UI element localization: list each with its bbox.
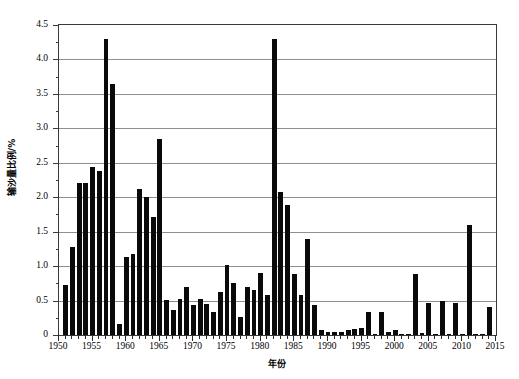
- y-tick-major: [53, 301, 59, 302]
- y-tick-major: [53, 266, 59, 267]
- x-tick-label: 1960: [116, 341, 135, 351]
- bar: [117, 324, 122, 335]
- x-axis-title: 年份: [58, 357, 495, 370]
- bar: [467, 225, 472, 335]
- x-tick-minor: [401, 335, 402, 339]
- x-tick-minor: [145, 335, 146, 339]
- bar: [245, 287, 250, 335]
- y-tick-label: 2.5: [36, 157, 48, 167]
- x-tick-minor: [347, 335, 348, 339]
- y-tick-label: 2.0: [36, 191, 48, 201]
- sediment-ratio-bar-chart: 输沙量比例/% 00.51.01.52.02.53.03.54.04.5 195…: [0, 0, 519, 379]
- y-tick-label: 0: [43, 329, 48, 339]
- x-tick-minor: [313, 335, 314, 339]
- plot-area: [58, 24, 497, 336]
- x-tick-minor: [65, 335, 66, 339]
- x-tick-minor: [213, 335, 214, 339]
- bar: [218, 292, 223, 335]
- y-tick-minor: [56, 77, 59, 78]
- y-tick-label: 4.5: [36, 19, 48, 29]
- x-tick-minor: [85, 335, 86, 339]
- bar: [184, 287, 189, 335]
- bar: [231, 283, 236, 335]
- x-tick-minor: [240, 335, 241, 339]
- x-tick-minor: [105, 335, 106, 339]
- x-tick-label: 1995: [351, 341, 370, 351]
- x-tick-minor: [468, 335, 469, 339]
- y-tick-minor: [56, 42, 59, 43]
- x-tick-minor: [475, 335, 476, 339]
- x-tick-minor: [387, 335, 388, 339]
- bar: [359, 328, 364, 335]
- y-tick-major: [53, 59, 59, 60]
- y-tick-minor: [56, 146, 59, 147]
- x-tick-minor: [152, 335, 153, 339]
- bar: [258, 273, 263, 335]
- y-tick-label: 3.5: [36, 88, 48, 98]
- bar: [204, 304, 209, 335]
- x-tick-minor: [119, 335, 120, 339]
- bar: [426, 303, 431, 335]
- x-tick-minor: [199, 335, 200, 339]
- x-tick-minor: [488, 335, 489, 339]
- bar: [191, 305, 196, 335]
- x-tick-label: 1950: [49, 341, 68, 351]
- x-tick-label: 2005: [418, 341, 437, 351]
- x-tick-minor: [381, 335, 382, 339]
- bar: [238, 317, 243, 335]
- bar: [211, 312, 216, 335]
- bar: [124, 257, 129, 335]
- x-tick-label: 2010: [452, 341, 471, 351]
- bar: [312, 305, 317, 335]
- x-tick-minor: [448, 335, 449, 339]
- y-tick-label: 3.0: [36, 122, 48, 132]
- x-tick-minor: [334, 335, 335, 339]
- x-tick-minor: [455, 335, 456, 339]
- y-tick-major: [53, 94, 59, 95]
- y-axis-title-text: 输沙量比例/%: [6, 139, 19, 196]
- x-tick-minor: [434, 335, 435, 339]
- bar: [453, 303, 458, 335]
- bar: [379, 312, 384, 335]
- x-tick-minor: [287, 335, 288, 339]
- bar: [265, 295, 270, 335]
- bar: [144, 197, 149, 335]
- x-tick-minor: [71, 335, 72, 339]
- bar: [157, 139, 162, 335]
- x-tick-label: 2000: [385, 341, 404, 351]
- x-tick-minor: [233, 335, 234, 339]
- x-tick-minor: [367, 335, 368, 339]
- y-tick-minor: [56, 283, 59, 284]
- x-tick-minor: [206, 335, 207, 339]
- bar-series: [59, 25, 496, 335]
- y-tick-minor: [56, 180, 59, 181]
- x-tick-minor: [98, 335, 99, 339]
- y-tick-label: 0.5: [36, 295, 48, 305]
- x-tick-minor: [280, 335, 281, 339]
- x-tick-minor: [374, 335, 375, 339]
- bar: [97, 171, 102, 335]
- bar: [110, 84, 115, 335]
- bar: [299, 295, 304, 335]
- x-tick-minor: [307, 335, 308, 339]
- x-tick-label: 1965: [149, 341, 168, 351]
- bar: [278, 192, 283, 335]
- bar: [90, 167, 95, 335]
- bar: [70, 247, 75, 335]
- x-tick-minor: [414, 335, 415, 339]
- x-tick-minor: [408, 335, 409, 339]
- x-tick-minor: [253, 335, 254, 339]
- x-tick-label: 1970: [183, 341, 202, 351]
- x-tick-minor: [300, 335, 301, 339]
- x-tick-minor: [78, 335, 79, 339]
- x-tick-minor: [166, 335, 167, 339]
- x-tick-minor: [172, 335, 173, 339]
- y-tick-minor: [56, 318, 59, 319]
- y-tick-major: [53, 128, 59, 129]
- x-tick-minor: [354, 335, 355, 339]
- y-tick-major: [53, 197, 59, 198]
- y-tick-minor: [56, 111, 59, 112]
- y-tick-major: [53, 163, 59, 164]
- bar: [77, 183, 82, 335]
- x-tick-minor: [112, 335, 113, 339]
